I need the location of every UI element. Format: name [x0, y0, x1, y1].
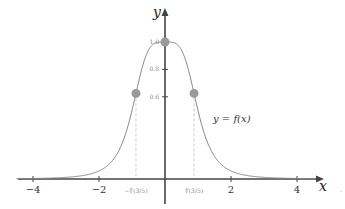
y-axis-arrow-icon: [162, 8, 169, 16]
x-tick-label: −2: [92, 184, 107, 195]
x-axis: [18, 176, 324, 183]
y-tick-label: 0.8: [149, 65, 159, 72]
chart: −4−224−∜(3/5)∜(3/5) 0.60.81.0 x y y = f(…: [0, 0, 345, 209]
stray-dot: .: [340, 186, 342, 193]
x-tick-label: 4: [294, 184, 300, 195]
y-tick-label: 0.6: [149, 93, 159, 100]
x-tick-label: −4: [26, 184, 41, 195]
y-axis-label: y: [152, 4, 162, 20]
marked-point: [190, 89, 199, 98]
marked-point: [161, 38, 170, 47]
special-x-tick-label: ∜(3/5): [185, 187, 203, 194]
y-axis: [162, 8, 169, 204]
special-x-tick-label: −∜(3/5): [124, 187, 147, 194]
x-axis-label: x: [319, 178, 327, 194]
marked-point: [131, 89, 140, 98]
function-label: y = f(x): [212, 113, 251, 124]
x-tick-label: 2: [228, 184, 234, 195]
